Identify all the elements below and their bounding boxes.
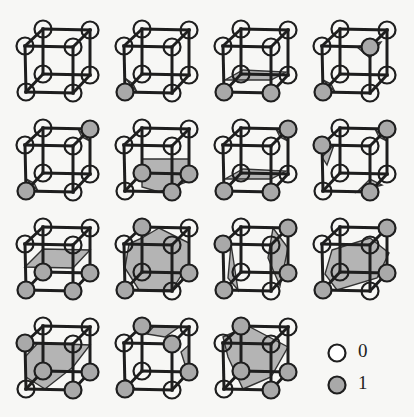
cube-edge (142, 29, 189, 30)
cube-case-7 (215, 120, 297, 201)
vertex-one-icon (18, 282, 35, 299)
cube-case-2 (116, 21, 198, 102)
vertex-one-icon (379, 121, 396, 138)
cube-edge (25, 46, 26, 92)
vertex-one-icon (35, 363, 52, 380)
cube-case-14 (116, 318, 198, 399)
vertex-one-icon (314, 137, 331, 154)
cube-edge (340, 74, 387, 75)
cube-edge (43, 326, 90, 327)
cube-edge (241, 173, 288, 174)
cube-edge (124, 46, 172, 47)
vertex-one-icon (17, 335, 34, 352)
legend-one-label: 1 (358, 372, 368, 394)
cube-edge (124, 244, 172, 245)
vertex-one-icon (216, 84, 233, 101)
vertex-one-icon (82, 265, 99, 282)
cube-case-9 (17, 219, 99, 300)
cube-edge (124, 145, 125, 191)
cube-case-13 (17, 318, 99, 399)
vertex-one-icon (18, 183, 35, 200)
vertex-one-icon (280, 265, 297, 282)
vertex-one-icon (233, 363, 250, 380)
cube-edge (223, 343, 271, 344)
vertex-one-icon (362, 39, 379, 56)
cube-case-5 (17, 120, 99, 201)
vertex-one-icon (134, 219, 151, 236)
cube-edge (25, 145, 73, 146)
vertex-one-icon (181, 364, 198, 381)
cube-edge (43, 74, 90, 75)
cube-case-11 (215, 219, 297, 300)
vertex-one-icon (65, 382, 82, 399)
vertex-one-icon (379, 220, 396, 237)
cube-case-8 (314, 120, 396, 201)
marching-cubes-figure: 0 1 (0, 0, 414, 417)
legend-zero-label: 0 (358, 340, 368, 362)
vertex-one-icon (164, 336, 181, 353)
vertex-one-icon (280, 121, 297, 138)
cube-case-10 (116, 219, 198, 300)
cube-edge (43, 173, 90, 174)
cube-grid (0, 0, 414, 417)
vertex-one-icon (280, 364, 297, 381)
cube-edge (223, 343, 224, 389)
vertex-one-icon (263, 184, 280, 201)
vertex-one-icon (215, 236, 232, 253)
cube-edge (223, 145, 271, 146)
legend-one-icon (326, 374, 348, 396)
vertex-one-icon (117, 381, 134, 398)
vertex-one-icon (82, 364, 99, 381)
isosurface-triangle (25, 249, 90, 268)
cube-edge (26, 92, 73, 93)
vertex-one-icon (216, 183, 233, 200)
cube-case-12 (314, 219, 396, 300)
vertex-one-icon (233, 318, 250, 335)
cube-edge (142, 74, 189, 75)
cube-edge (322, 244, 370, 245)
vertex-one-icon (181, 265, 198, 282)
cube-case-1 (17, 21, 99, 102)
cube-edge (241, 29, 288, 30)
vertex-one-icon (263, 85, 280, 102)
cube-case-15 (215, 318, 297, 399)
vertex-one-icon (134, 318, 151, 335)
cube-edge (223, 46, 271, 47)
cube-edge (340, 173, 387, 174)
vertex-one-icon (164, 184, 181, 201)
cube-edge (340, 29, 387, 30)
cube-edge (25, 244, 73, 245)
cube-edge (25, 46, 73, 47)
vertex-one-icon (134, 165, 151, 182)
vertex-one-icon (280, 220, 297, 237)
vertex-one-icon (362, 184, 379, 201)
vertex-one-icon (65, 283, 82, 300)
cube-case-6 (116, 120, 198, 201)
vertex-one-icon (379, 265, 396, 282)
cube-edge (43, 227, 90, 228)
cube-edge (142, 128, 189, 129)
legend-zero-icon (326, 342, 348, 364)
cube-case-4 (314, 21, 396, 102)
vertex-one-icon (181, 166, 198, 183)
vertex-one-icon (315, 282, 332, 299)
vertex-one-icon (117, 84, 134, 101)
vertex-one-icon (82, 121, 99, 138)
cube-case-3 (215, 21, 297, 102)
vertex-one-icon (216, 282, 233, 299)
vertex-one-icon (117, 282, 134, 299)
vertex-one-icon (263, 382, 280, 399)
vertex-one-icon (35, 264, 52, 281)
cube-edge (43, 29, 90, 30)
vertex-one-icon (315, 84, 332, 101)
cube-edge (241, 74, 288, 75)
cube-edge (124, 145, 172, 146)
